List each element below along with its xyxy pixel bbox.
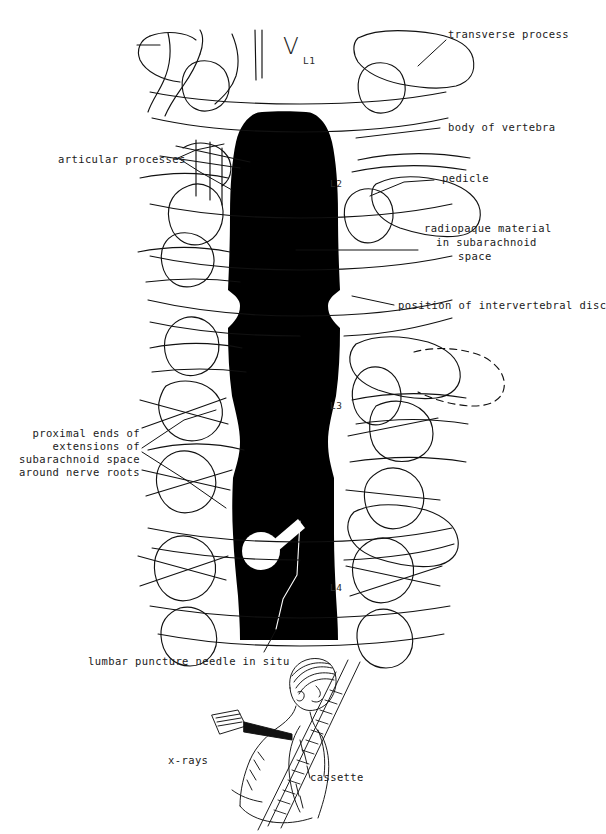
label-lumbar-puncture-needle: lumbar puncture needle in situ <box>88 655 290 668</box>
vertebra-level-l3: L3 <box>330 400 342 411</box>
transverse-process-right-l3 <box>350 337 460 399</box>
leader-disc <box>352 296 394 305</box>
label-xrays: x-rays <box>168 754 208 767</box>
vertebra-level-l2: L2 <box>330 178 342 189</box>
label-cassette: cassette <box>310 771 364 784</box>
leader-proximal-1 <box>142 410 216 448</box>
leader-transverse-process <box>418 40 446 66</box>
label-articular-processes: articular processes <box>58 153 186 166</box>
label-proximal-ends-line1: proximal ends of <box>0 427 140 440</box>
transverse-process-left-l1 <box>150 33 196 40</box>
label-pedicle: pedicle <box>442 172 489 185</box>
label-radiopaque-material-line1: radiopaque material <box>424 222 552 235</box>
label-proximal-ends-line2: extensions of <box>0 440 140 453</box>
label-radiopaque-material-line3: space <box>458 250 492 263</box>
vertebra-glyph-v: V <box>283 33 299 59</box>
label-proximal-ends-line4: around nerve roots <box>0 466 140 479</box>
vertebra-level-l1: L1 <box>303 55 315 66</box>
label-position-of-intervertebral-disc: position of intervertebral disc <box>398 299 606 312</box>
cassette-hatching <box>274 690 342 814</box>
patient-positioning-inset <box>212 658 360 830</box>
vertebra-level-l4: L4 <box>330 582 342 593</box>
label-proximal-ends-line3: subarachnoid space <box>0 453 140 466</box>
label-radiopaque-material-line2: in subarachnoid <box>436 236 537 249</box>
xray-beam <box>244 722 292 740</box>
lumbar-puncture-needle-hub <box>242 532 280 570</box>
label-transverse-process: transverse process <box>448 28 569 41</box>
cassette-rail-inner <box>281 662 360 828</box>
label-body-of-vertebra: body of vertebra <box>448 121 556 134</box>
